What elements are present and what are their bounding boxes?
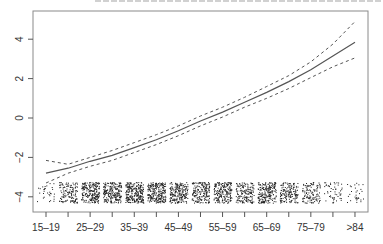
rug-dot bbox=[113, 194, 114, 195]
rug-dot bbox=[273, 187, 274, 188]
rug-dot bbox=[97, 186, 98, 187]
rug-dot bbox=[312, 192, 313, 193]
rug-dot bbox=[363, 199, 364, 200]
rug-dot bbox=[127, 187, 128, 188]
rug-dot bbox=[103, 197, 104, 198]
rug-dot bbox=[76, 202, 77, 203]
rug-dot bbox=[93, 185, 94, 186]
rug-dot bbox=[303, 188, 304, 189]
rug-dot bbox=[109, 196, 110, 197]
rug-dot bbox=[174, 200, 175, 201]
rug-dot bbox=[155, 190, 156, 191]
rug-dot bbox=[120, 200, 121, 201]
rug-dot bbox=[237, 193, 238, 194]
rug-dot bbox=[54, 194, 55, 195]
rug-dot bbox=[129, 184, 130, 185]
rug-dot bbox=[225, 183, 226, 184]
rug-dot bbox=[187, 192, 188, 193]
rug-dot bbox=[165, 196, 166, 197]
rug-dot bbox=[263, 189, 264, 190]
rug-dot bbox=[268, 203, 269, 204]
rug-dot bbox=[237, 191, 238, 192]
rug-dot bbox=[206, 184, 207, 185]
rug-dot bbox=[44, 189, 45, 190]
rug-dot bbox=[91, 200, 92, 201]
rug-dot bbox=[51, 193, 52, 194]
rug-dot bbox=[140, 199, 141, 200]
rug-dot bbox=[244, 199, 245, 200]
rug-dot bbox=[180, 188, 181, 189]
rug-dot bbox=[311, 187, 312, 188]
rug-dot bbox=[152, 185, 153, 186]
rug-dot bbox=[65, 196, 66, 197]
density-rug bbox=[37, 182, 364, 204]
rug-dot bbox=[104, 196, 105, 197]
y-tick-label: 2 bbox=[14, 75, 25, 81]
rug-dot bbox=[242, 183, 243, 184]
rug-dot bbox=[61, 192, 62, 193]
rug-dot bbox=[66, 184, 67, 185]
rug-dot bbox=[296, 202, 297, 203]
rug-dot bbox=[93, 187, 94, 188]
rug-dot bbox=[126, 198, 127, 199]
rug-dot bbox=[95, 184, 96, 185]
rug-dot bbox=[96, 197, 97, 198]
rug-dot bbox=[317, 188, 318, 189]
rug-dot bbox=[219, 190, 220, 191]
rug-dot bbox=[320, 187, 321, 188]
rug-dot bbox=[129, 182, 130, 183]
rug-dot bbox=[176, 186, 177, 187]
rug-dot bbox=[226, 184, 227, 185]
rug-dot bbox=[250, 200, 251, 201]
rug-dot bbox=[209, 196, 210, 197]
rug-dot bbox=[104, 192, 105, 193]
rug-dot bbox=[268, 200, 269, 201]
rug-dot bbox=[222, 200, 223, 201]
rug-dot bbox=[360, 189, 361, 190]
rug-dot bbox=[252, 202, 253, 203]
rug-dot bbox=[84, 186, 85, 187]
rug-dot bbox=[73, 195, 74, 196]
rug-dot bbox=[222, 191, 223, 192]
x-axis: 15–1925–2935–3945–4955–5965–6975–79>84 bbox=[32, 212, 364, 233]
rug-dot bbox=[121, 201, 122, 202]
confidence-band-line bbox=[46, 22, 355, 165]
rug-dot bbox=[139, 197, 140, 198]
rug-dot bbox=[306, 203, 307, 204]
rug-dot bbox=[198, 186, 199, 187]
rug-dot bbox=[91, 187, 92, 188]
rug-dot bbox=[215, 202, 216, 203]
rug-dot bbox=[69, 197, 70, 198]
rug-dot bbox=[204, 200, 205, 201]
rug-dot bbox=[271, 199, 272, 200]
rug-dot bbox=[319, 192, 320, 193]
rug-dot bbox=[73, 190, 74, 191]
rug-dot bbox=[175, 189, 176, 190]
rug-dot bbox=[149, 202, 150, 203]
rug-dot bbox=[148, 184, 149, 185]
rug-dot bbox=[223, 186, 224, 187]
rug-dot bbox=[268, 201, 269, 202]
rug-dot bbox=[243, 187, 244, 188]
rug-dot bbox=[178, 190, 179, 191]
rug-dot bbox=[61, 184, 62, 185]
rug-dot bbox=[138, 191, 139, 192]
rug-dot bbox=[272, 188, 273, 189]
rug-dot bbox=[309, 195, 310, 196]
rug-dot bbox=[237, 184, 238, 185]
rug-dot bbox=[293, 184, 294, 185]
rug-dot bbox=[284, 201, 285, 202]
rug-dot bbox=[71, 191, 72, 192]
rug-dot bbox=[340, 198, 341, 199]
rug-dot bbox=[178, 196, 179, 197]
rug-dot bbox=[228, 193, 229, 194]
rug-dot bbox=[206, 190, 207, 191]
rug-dot bbox=[172, 202, 173, 203]
rug-dot bbox=[171, 192, 172, 193]
rug-dot bbox=[63, 192, 64, 193]
rug-dot bbox=[84, 192, 85, 193]
rug-dot bbox=[253, 202, 254, 203]
rug-dot bbox=[260, 187, 261, 188]
rug-dot bbox=[359, 193, 360, 194]
rug-dot bbox=[164, 191, 165, 192]
